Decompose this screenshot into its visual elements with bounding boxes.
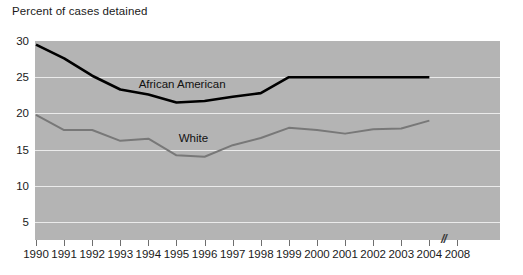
x-tick-label: 1994: [136, 248, 162, 260]
x-tick-label: 1998: [248, 248, 274, 260]
x-tick-label: 1996: [192, 248, 218, 260]
y-tick-label: 25: [16, 71, 29, 83]
series-line-african-american: [36, 45, 429, 103]
plot-area: African AmericanWhite: [35, 41, 500, 240]
x-tick-label: 2003: [388, 248, 414, 260]
y-tick-label: 30: [16, 35, 29, 47]
x-tick-label: 1999: [276, 248, 302, 260]
x-tick-mark: [205, 240, 206, 246]
x-tick-mark: [148, 240, 149, 246]
y-tick-label: 5: [23, 216, 29, 228]
y-tick-label: 10: [16, 180, 29, 192]
axis-break-marker: //: [441, 232, 446, 246]
x-tick-mark: [120, 240, 121, 246]
x-tick-label: 1993: [107, 248, 133, 260]
x-tick-mark: [345, 240, 346, 246]
x-tick-label: 1991: [51, 248, 77, 260]
x-tick-mark: [92, 240, 93, 246]
series-line-white: [36, 115, 429, 157]
x-tick-mark: [261, 240, 262, 246]
x-tick-label: 1990: [23, 248, 49, 260]
x-tick-mark: [289, 240, 290, 246]
x-tick-mark: [36, 240, 37, 246]
x-tick-mark: [373, 240, 374, 246]
y-tick-label: 15: [16, 144, 29, 156]
x-tick-mark: [457, 240, 458, 246]
x-tick-label: 2008: [445, 248, 471, 260]
x-tick-label: 1997: [220, 248, 246, 260]
x-tick-mark: [233, 240, 234, 246]
x-tick-mark: [401, 240, 402, 246]
x-tick-label: 2004: [417, 248, 443, 260]
series-label-african-american: African American: [139, 78, 226, 90]
series-lines: [35, 41, 500, 240]
chart-title: Percent of cases detained: [12, 5, 147, 17]
x-tick-mark: [64, 240, 65, 246]
y-axis: 51015202530: [0, 41, 35, 240]
x-tick-mark: [317, 240, 318, 246]
chart-figure: Percent of cases detained African Americ…: [0, 0, 523, 275]
x-tick-mark: [429, 240, 430, 246]
x-tick-label: 2001: [332, 248, 358, 260]
x-tick-label: 1992: [79, 248, 105, 260]
x-axis: 1990199119921993199419951996199719981999…: [0, 248, 523, 268]
x-tick-label: 2002: [360, 248, 386, 260]
x-tick-label: 1995: [164, 248, 190, 260]
y-tick-label: 20: [16, 107, 29, 119]
x-tick-mark: [176, 240, 177, 246]
series-label-white: White: [179, 132, 208, 144]
x-tick-label: 2000: [304, 248, 330, 260]
